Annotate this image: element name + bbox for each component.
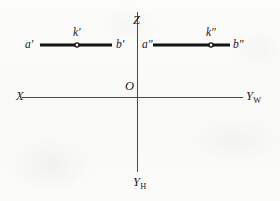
axis-label-yw: YW (246, 90, 261, 103)
label-b-prime: b' (116, 39, 124, 51)
label-k-prime: k' (73, 27, 81, 39)
origin-label-o: O (125, 80, 134, 93)
point-marker-k-prime (75, 43, 79, 47)
axis-label-yh-letter: Y (133, 175, 140, 189)
label-k-double-prime: k" (206, 27, 216, 39)
label-a-prime: a' (25, 39, 33, 51)
axis-label-yw-letter: Y (246, 89, 253, 103)
axis-label-yw-subscript: W (253, 96, 261, 105)
label-a-double-prime: a" (142, 39, 153, 51)
axis-label-yh-subscript: H (140, 182, 146, 191)
axis-label-z: Z (133, 14, 140, 27)
axis-label-x: X (16, 90, 24, 103)
projection-diagram: Z X YW YH O a' k' b' a" k" b" (0, 0, 280, 201)
profile-projection-group (153, 43, 230, 47)
point-marker-k-double-prime (209, 43, 213, 47)
axis-label-yh: YH (133, 176, 146, 189)
diagram-canvas (0, 0, 280, 201)
frontal-projection-group (40, 43, 112, 47)
label-b-double-prime: b" (233, 39, 244, 51)
